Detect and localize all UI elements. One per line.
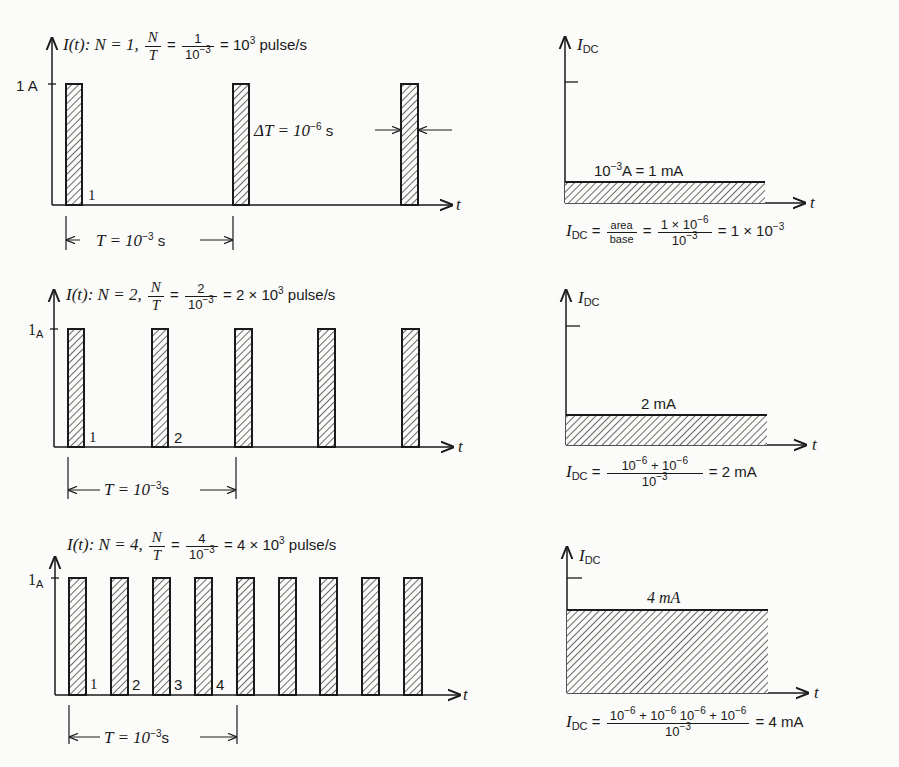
pulse-bar [111, 578, 128, 695]
dc-area [565, 182, 765, 203]
pulse-bar [66, 84, 82, 205]
pulse-bar [401, 84, 418, 205]
t-axis-label: t [812, 436, 817, 453]
dc-axis-label: IDC [579, 547, 601, 564]
period-label: T = 10−3s [104, 729, 169, 746]
dc-formula: IDC = 10−6 + 10−6 10−6 + 10−610−3 = 4 mA [566, 709, 804, 738]
pulse-bar [195, 578, 212, 695]
pulse-chart-title-n4: I(t): N = 4, NT = 410−3 = 4 × 103 pulse/… [67, 530, 336, 563]
y-label-1A: 1 A [16, 78, 38, 93]
rate-fraction: 110−3 [182, 32, 214, 61]
pulse-bar [320, 578, 337, 695]
pulse-bar [152, 329, 168, 447]
dc-formula: IDC = areabase = 1 × 10−610−3 = 1 × 10−3 [566, 218, 784, 247]
pulse-chart-n2 [50, 290, 453, 499]
pulse-label: 1 [90, 677, 98, 692]
dc-level-label: 4 mA [647, 590, 680, 606]
pulse-chart-n1 [48, 38, 452, 250]
pulse-label: 2 [174, 430, 182, 445]
y-label-1A: 1A [28, 322, 43, 338]
pulse-bar [402, 329, 419, 447]
pulse-bar [69, 578, 86, 695]
pulse-bar [233, 84, 249, 205]
pulse-bar [318, 329, 335, 447]
pulse-bar [235, 329, 252, 447]
dc-area [567, 610, 768, 693]
title-func: I(t): N = 1, [63, 35, 139, 54]
pulse-bar [68, 329, 84, 447]
dc-axis-label: IDC [578, 289, 600, 306]
pulse-bar [279, 578, 296, 695]
period-label: T = 10−3s [104, 481, 169, 498]
dc-level-label: 2 mA [641, 396, 676, 411]
n-over-t-fraction: NT [145, 30, 161, 63]
period-label: T = 10−3 s [96, 232, 165, 249]
pulse-label: 4 [216, 677, 224, 692]
t-axis-label: t [458, 438, 463, 455]
pulse-chart-n4 [51, 557, 460, 744]
t-axis-label: t [463, 686, 468, 703]
t-axis-label: t [456, 196, 461, 213]
dc-chart-n2 [566, 290, 806, 445]
dc-level-label: 10−3A = 1 mA [594, 163, 683, 178]
dc-axis-label: IDC [577, 36, 599, 53]
t-axis-label: t [814, 684, 819, 701]
pulse-bar [362, 578, 379, 695]
pulse-bar [404, 578, 422, 695]
pulse-bar [153, 578, 170, 695]
y-label-1A: 1A [28, 572, 43, 588]
pulse-bar [237, 578, 254, 695]
figure-canvas [0, 0, 899, 767]
t-axis-label: t [810, 194, 815, 211]
pulse-label: 2 [132, 677, 140, 692]
dc-area [566, 415, 767, 445]
pulse-label: 3 [174, 677, 182, 692]
pulse-chart-title-n1: I(t): N = 1, NT = 110−3 = 103 pulse/s [63, 30, 307, 63]
dc-formula: IDC = 10−6 + 10−610−3 = 2 mA [566, 459, 757, 488]
dc-chart-n4 [567, 547, 808, 693]
pulse-chart-title-n2: I(t): N = 2, NT = 210−3 = 2 × 103 pulse/… [66, 280, 335, 313]
pulse-label: 1 [89, 430, 97, 445]
pulse-label: 1 [88, 188, 96, 203]
delta-t-label: ΔT = 10−6 s [254, 122, 333, 139]
